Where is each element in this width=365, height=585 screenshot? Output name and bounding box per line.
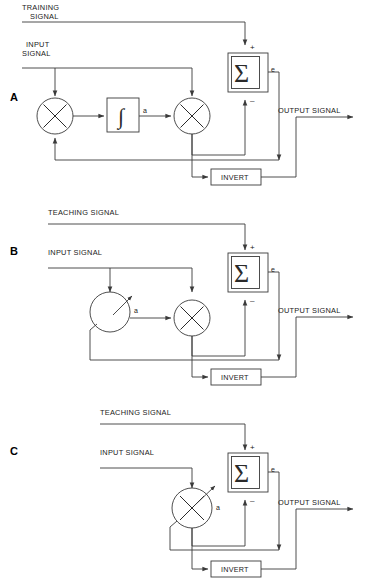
panel-a-letter: A (10, 91, 18, 103)
panel-c-error-output-wire (268, 472, 279, 550)
panel-c-output-wire (261, 509, 353, 569)
panel-b-error-output-wire (268, 272, 279, 360)
panel-a-mult-right-to-invert (192, 134, 208, 177)
panel-a-sigma-icon: Σ (234, 59, 249, 88)
panel-b-minus-sign: – (250, 296, 255, 305)
panel-b-output-wire (261, 317, 353, 377)
panel-b-output-label: OUTPUT SIGNAL (278, 306, 341, 315)
panel-c-minus-sign: – (250, 496, 255, 505)
panel-c-input-label: INPUT SIGNAL (100, 448, 154, 457)
panel-c-gain-label: a (216, 504, 220, 511)
panel-a-output-label: OUTPUT SIGNAL (278, 106, 341, 115)
panel-c-invert-label: INVERT (221, 565, 249, 574)
panel-a-invert-label: INVERT (221, 173, 249, 182)
panel-c-sigma-icon: Σ (234, 459, 249, 488)
panel-a-plus-sign: + (250, 43, 255, 52)
panel-b-letter: B (10, 245, 18, 257)
panel-b-sigma-icon: Σ (234, 259, 249, 288)
panel-c: C TEACHING SIGNAL INPUT SIGNAL a Σ + – e (10, 408, 353, 577)
panel-a-training-label-line1: TRAINING (22, 3, 59, 12)
panel-b-adjustable-gain (90, 292, 130, 332)
figure-container: A TRAINING SIGNAL INPUT SIGNAL ∫ (0, 0, 365, 585)
panel-b-gain-label: a (134, 307, 138, 314)
panel-b: B TEACHING SIGNAL INPUT SIGNAL a Σ (10, 208, 353, 385)
panel-a-gain-label: a (143, 107, 147, 114)
panel-c-multiplier-to-invert (192, 528, 208, 569)
panel-c-teaching-label: TEACHING SIGNAL (100, 408, 171, 417)
panel-c-plus-sign: + (250, 443, 255, 452)
panel-a-output-wire (261, 117, 353, 177)
panel-c-teaching-wire (100, 424, 245, 450)
panel-b-teaching-wire (48, 224, 245, 250)
block-diagram-canvas: A TRAINING SIGNAL INPUT SIGNAL ∫ (0, 0, 365, 585)
panel-a-input-label-line1: INPUT (26, 40, 50, 49)
panel-a: A TRAINING SIGNAL INPUT SIGNAL ∫ (10, 3, 353, 185)
panel-b-plus-sign: + (250, 243, 255, 252)
panel-a-training-label-line2: SIGNAL (30, 12, 59, 21)
panel-a-minus-sign: – (250, 96, 255, 105)
panel-a-training-wire (22, 22, 245, 45)
panel-b-multiplier-to-invert (192, 336, 208, 377)
panel-c-output-label: OUTPUT SIGNAL (278, 498, 341, 507)
panel-b-invert-label: INVERT (221, 373, 249, 382)
panel-a-error-output-wire (268, 72, 279, 160)
panel-c-letter: C (10, 445, 18, 457)
panel-b-input-label: INPUT SIGNAL (48, 248, 102, 257)
panel-b-teaching-label: TEACHING SIGNAL (48, 208, 119, 217)
panel-a-input-label-line2: SIGNAL (22, 49, 51, 58)
panel-c-input-wire (100, 468, 192, 488)
